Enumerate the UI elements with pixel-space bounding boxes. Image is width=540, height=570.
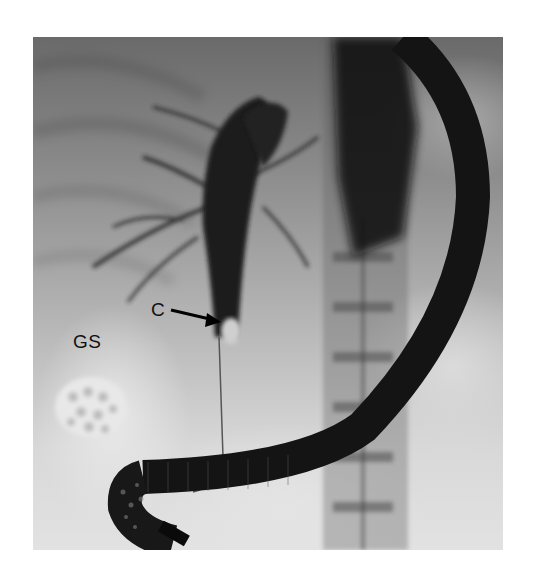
xray-image <box>33 37 503 550</box>
xray-graphics <box>33 37 503 550</box>
label-gs: GS <box>73 331 101 353</box>
stone-c <box>221 318 241 344</box>
gallstone-cluster <box>55 377 127 437</box>
label-c: C <box>151 299 165 321</box>
